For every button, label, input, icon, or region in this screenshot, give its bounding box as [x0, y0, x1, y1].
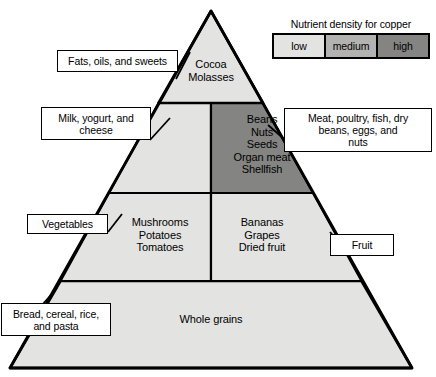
legend: Nutrient density for copper low medium h…: [272, 18, 430, 59]
callout-dairy: Milk, yogurt, and cheese: [41, 107, 151, 140]
legend-title: Nutrient density for copper: [272, 18, 430, 30]
callout-fats-oils-sweets: Fats, oils, and sweets: [57, 50, 178, 72]
cell-label-grains: Whole grains: [161, 313, 261, 326]
food-pyramid-figure: Cocoa Molasses Beans Nuts Seeds Organ me…: [0, 0, 436, 377]
cell-label-vegetables: Mushrooms Potatoes Tomatoes: [110, 216, 210, 254]
callout-fruit: Fruit: [330, 234, 394, 256]
callout-protein: Meat, poultry, fish, dry beans, eggs, an…: [284, 108, 432, 152]
legend-swatch-high: high: [376, 35, 428, 57]
cell-label-fruit: Bananas Grapes Dried fruit: [212, 216, 312, 254]
callout-vegetables: Vegetables: [27, 214, 108, 234]
legend-swatch-medium: medium: [324, 35, 376, 57]
legend-swatches: low medium high: [272, 33, 430, 59]
callout-grains: Bread, cereal, rice, and pasta: [1, 303, 111, 336]
legend-swatch-low: low: [274, 35, 324, 57]
